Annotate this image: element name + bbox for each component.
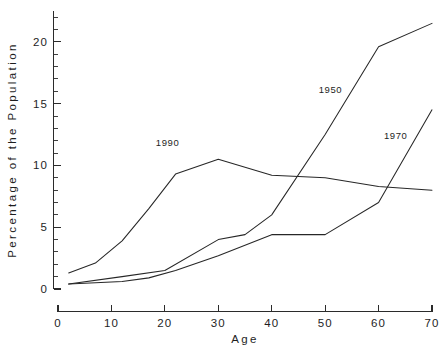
x-axis-title: Age <box>231 333 259 345</box>
y-tick-label: 0 <box>41 283 49 295</box>
y-axis-tick-labels: 05101520 <box>33 36 48 295</box>
y-axis-title: Percentage of the Population <box>6 42 18 258</box>
x-tick-label: 70 <box>425 317 440 329</box>
x-axis-ticks <box>58 305 432 312</box>
y-tick-label: 10 <box>33 159 48 171</box>
series-label-1950: 1950 <box>319 84 343 95</box>
line-chart: 05101520 Percentage of the Population 01… <box>0 0 442 345</box>
series-line-1950 <box>69 23 432 284</box>
y-axis-group: 05101520 Percentage of the Population <box>6 11 61 295</box>
x-tick-label: 10 <box>104 317 119 329</box>
series-label-1970: 1970 <box>384 130 408 141</box>
x-tick-label: 40 <box>264 317 279 329</box>
x-tick-label: 0 <box>54 317 62 329</box>
series-lines-group <box>69 23 432 284</box>
series-line-1990 <box>69 159 432 273</box>
y-axis-ticks <box>54 17 61 289</box>
x-tick-label: 50 <box>318 317 333 329</box>
y-tick-label: 5 <box>41 221 49 233</box>
y-tick-label: 15 <box>33 98 48 110</box>
series-labels-group: 199019501970 <box>156 84 408 148</box>
series-line-1970 <box>69 110 432 284</box>
x-tick-label: 20 <box>157 317 172 329</box>
x-tick-label: 30 <box>211 317 226 329</box>
x-axis-group: 010203040506070 Age <box>54 305 439 345</box>
x-tick-label: 60 <box>371 317 386 329</box>
chart-canvas: 05101520 Percentage of the Population 01… <box>0 0 442 345</box>
series-label-1990: 1990 <box>156 137 180 148</box>
y-tick-label: 20 <box>33 36 48 48</box>
x-axis-tick-labels: 010203040506070 <box>54 317 439 329</box>
